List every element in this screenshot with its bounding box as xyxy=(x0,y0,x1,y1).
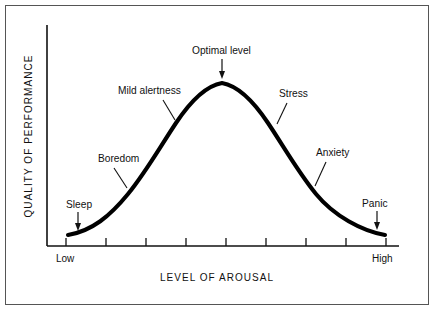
annotation-sleep-label: Sleep xyxy=(66,199,92,210)
annotation-optimal-level-label: Optimal level xyxy=(192,45,251,56)
annotation-mild-alertness-label: Mild alertness xyxy=(118,85,181,96)
annotation-stress: Stress xyxy=(277,88,308,124)
x-axis-ticks xyxy=(66,238,386,246)
annotation-optimal-level-arrowhead xyxy=(219,71,225,79)
annotation-anxiety-label: Anxiety xyxy=(316,147,350,158)
x-axis-title: LEVEL OF AROUSAL xyxy=(160,272,274,283)
annotation-boredom-label: Boredom xyxy=(98,153,139,164)
x-axis-low-label: Low xyxy=(56,253,75,264)
annotation-stress-label: Stress xyxy=(279,88,308,99)
annotation-panic: Panic xyxy=(362,198,387,230)
annotation-mild-alertness: Mild alertness xyxy=(118,85,181,120)
annotation-panic-label: Panic xyxy=(362,198,387,209)
annotation-anxiety: Anxiety xyxy=(315,147,350,186)
y-axis-title: QUALITY OF PERFORMANCE xyxy=(23,55,34,218)
x-axis-high-label: High xyxy=(372,253,393,264)
annotation-boredom: Boredom xyxy=(98,153,139,188)
chart-canvas: Sleep Boredom Mild alertness Optimal lev… xyxy=(0,0,434,310)
annotation-optimal-level: Optimal level xyxy=(192,45,251,79)
figure-container: Sleep Boredom Mild alertness Optimal lev… xyxy=(0,0,434,310)
annotation-panic-arrowhead xyxy=(374,222,380,230)
